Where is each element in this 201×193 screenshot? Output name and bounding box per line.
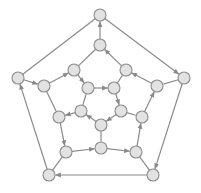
graph-node-I3	[95, 119, 107, 131]
graph-node-M7	[53, 111, 65, 123]
graph-node-O3	[43, 169, 55, 181]
graph-node-M2	[151, 80, 163, 92]
edge-O1-M2	[163, 80, 178, 84]
graph-node-M8	[38, 80, 50, 92]
graph-node-M0	[94, 39, 106, 51]
directed-edge-M8-M9	[49, 73, 68, 83]
directed-edge-M5-M4	[107, 149, 130, 152]
directed-edge-O4-M8	[24, 80, 38, 84]
graph-node-I2	[115, 105, 127, 117]
directed-edge-I4-M7	[65, 113, 75, 116]
edge-M9-M0	[78, 50, 95, 66]
directed-edge-M6-M5	[72, 149, 95, 152]
directed-edge-O0-O1	[105, 19, 179, 75]
graph-node-I4	[75, 105, 87, 117]
directed-edge-I1-I2	[116, 94, 119, 105]
edge-O4-O0	[23, 19, 95, 74]
nodes-layer	[12, 9, 190, 181]
edge-I1-M1	[117, 75, 122, 83]
graph-node-M3	[136, 111, 148, 123]
directed-edge-M9-I0	[78, 75, 84, 83]
directed-edge-I2-I3	[106, 114, 116, 121]
graph-node-O1	[178, 72, 190, 84]
edge-M8-M7	[47, 91, 57, 111]
graph-node-M9	[68, 64, 80, 76]
directed-edge-O1-O2	[155, 84, 182, 169]
directed-edge-I3-I4	[86, 115, 96, 122]
graph-node-I0	[82, 82, 94, 94]
graph-node-M1	[120, 64, 132, 76]
edge-I4-I0	[83, 94, 86, 105]
directed-edge-M3-M2	[145, 92, 155, 112]
graph-node-M4	[130, 146, 142, 158]
graph-node-I1	[108, 82, 120, 94]
directed-edge-M2-M1	[132, 73, 152, 83]
graph-node-O2	[147, 169, 159, 181]
edge-I2-M3	[127, 113, 136, 116]
graph-node-M5	[95, 142, 107, 154]
graph-node-M6	[60, 146, 72, 158]
dodecahedron-graph-diagram	[0, 0, 201, 193]
edge-O3-M6	[53, 157, 63, 170]
graph-node-O0	[94, 9, 106, 21]
directed-edge-M4-M3	[137, 123, 141, 146]
directed-edge-M1-M0	[105, 50, 122, 66]
directed-edge-M7-M6	[60, 123, 65, 146]
edge-O2-M4	[140, 157, 150, 170]
graph-node-O4	[12, 72, 24, 84]
directed-edge-O3-O4	[20, 84, 47, 169]
